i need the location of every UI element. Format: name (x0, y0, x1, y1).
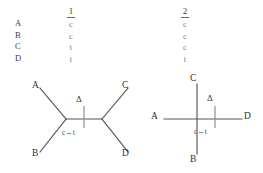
state-cell: c (177, 19, 193, 31)
substitution-label: c↔t (194, 128, 207, 136)
taxon-label: D (15, 53, 29, 65)
substitution-label: c↔t (62, 129, 75, 137)
site-column-2: 2 c c c t (177, 6, 193, 65)
figure-root: A B C D 1 c c t t 2 c c c t (0, 0, 263, 173)
tree-left: A B C D Δ c↔t (18, 72, 146, 170)
state-cell: c (177, 42, 193, 54)
state-cell: c (177, 31, 193, 43)
state-cell: t (63, 54, 79, 66)
site-column-1: 1 c c t t (63, 6, 79, 65)
tip-label-D: D (244, 111, 251, 121)
taxon-label: A (15, 18, 29, 30)
tree-right: C B A D Δ c↔t (146, 72, 263, 170)
character-matrix: A B C D 1 c c t t 2 c c c t (0, 0, 263, 68)
taxon-label: B (15, 30, 29, 42)
tip-label-D: D (122, 148, 129, 158)
change-marker-label: Δ (76, 95, 82, 104)
state-cell: t (177, 54, 193, 66)
state-cell: c (63, 31, 79, 43)
tip-label-A: A (151, 111, 158, 121)
change-marker-label: Δ (207, 94, 213, 103)
tip-label-C: C (122, 80, 128, 90)
branch-C (102, 88, 128, 119)
tip-label-C: C (190, 73, 196, 83)
site-column-header: 2 (181, 6, 189, 18)
branch-A (40, 88, 66, 119)
tree-right-graphic (146, 72, 263, 170)
tip-label-B: B (190, 154, 196, 164)
state-cell: t (63, 42, 79, 54)
tip-label-B: B (32, 148, 38, 158)
state-cell: c (63, 19, 79, 31)
tip-label-A: A (32, 80, 39, 90)
site-column-header: 1 (67, 6, 75, 18)
taxon-label-column: A B C D (15, 18, 29, 64)
taxon-label: C (15, 41, 29, 53)
